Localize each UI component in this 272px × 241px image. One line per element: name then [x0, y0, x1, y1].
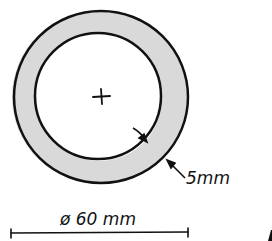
diameter-label: ø 60 mm: [59, 209, 136, 229]
thickness-label: 5mm: [186, 168, 230, 188]
outer-arrow-icon: [167, 160, 185, 178]
edge-mark: [268, 230, 272, 241]
diameter-dimension-line: [11, 228, 188, 238]
pipe-diagram: 5mm ø 60 mm: [0, 0, 272, 241]
